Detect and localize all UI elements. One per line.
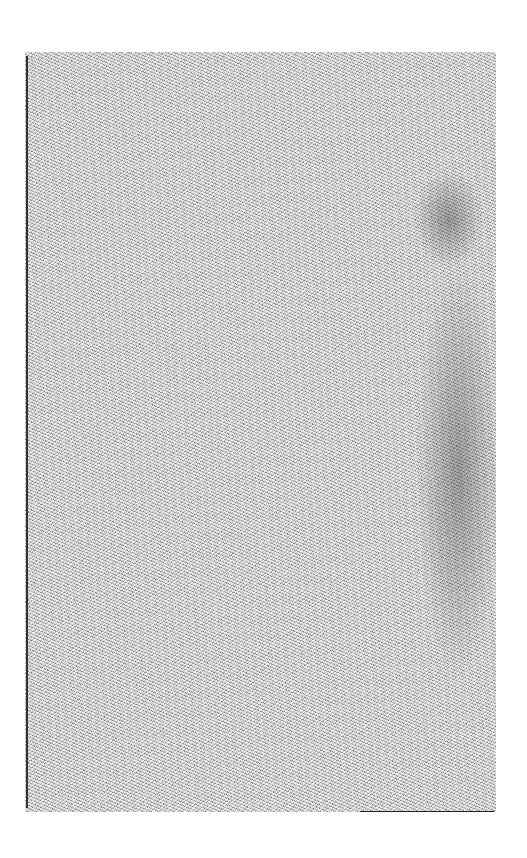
page-bottom-edge-line [360,811,494,812]
speckled-page [25,52,496,812]
page-left-edge-line [26,56,28,808]
